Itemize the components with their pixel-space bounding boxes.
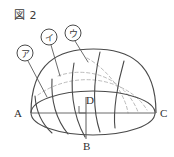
surface-curve-e <box>114 61 124 128</box>
surface-curves-group <box>35 52 124 137</box>
surface-curve-b <box>52 79 68 134</box>
point-label-A: A <box>14 107 22 119</box>
point-label-C: C <box>160 107 167 119</box>
surface-curve-d <box>95 52 100 132</box>
callout-a[interactable]: ア <box>17 45 33 61</box>
callout-label-u: ウ <box>69 29 78 39</box>
hemisphere-diagram: ア イ ウ A B C D <box>0 0 174 157</box>
right-angle-mark-D <box>79 106 86 113</box>
callout-label-a: ア <box>21 49 30 59</box>
point-label-B: B <box>83 140 90 152</box>
point-label-D: D <box>86 94 94 106</box>
callout-label-i: イ <box>45 33 54 43</box>
callout-u[interactable]: ウ <box>65 25 81 41</box>
surface-curve-a <box>35 96 52 133</box>
figure-container: 図 2 <box>0 0 174 157</box>
leader-line-i <box>51 45 60 76</box>
callout-i[interactable]: イ <box>41 29 57 45</box>
leader-line-u <box>75 41 88 62</box>
surface-curve-c <box>72 63 85 137</box>
